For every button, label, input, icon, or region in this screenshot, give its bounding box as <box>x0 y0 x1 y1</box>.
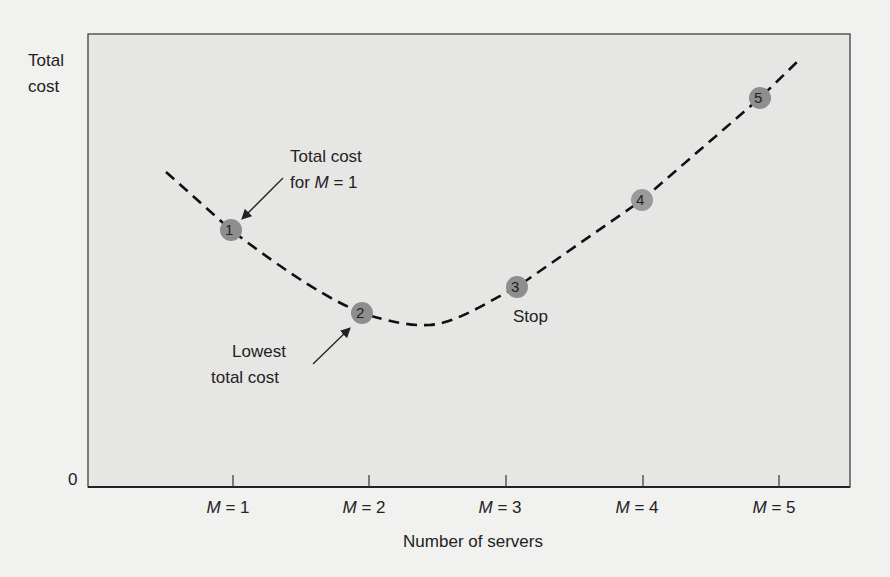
x-tick-label-5: M = 5 <box>752 498 795 518</box>
marker-label-1: 1 <box>225 220 233 240</box>
annotation-total-cost-m1-line2: for M = 1 <box>290 173 358 193</box>
y-axis-label-line1: Total <box>28 51 64 71</box>
chart-canvas <box>0 0 890 577</box>
x-tick-label-1: M = 1 <box>206 498 249 518</box>
marker-label-2: 2 <box>356 303 364 323</box>
plot-area <box>88 34 850 487</box>
marker-label-3: 3 <box>511 277 519 297</box>
marker-label-5: 5 <box>754 88 762 108</box>
x-tick-label-2: M = 2 <box>342 498 385 518</box>
x-axis-label: Number of servers <box>403 532 543 552</box>
x-tick-label-4: M = 4 <box>615 498 658 518</box>
y-origin-label: 0 <box>68 470 77 490</box>
annotation-lowest-line1: Lowest <box>232 342 286 362</box>
x-tick-label-3: M = 3 <box>478 498 521 518</box>
annotation-stop: Stop <box>513 307 548 327</box>
annotation-total-cost-m1-line1: Total cost <box>290 147 362 167</box>
annotation-lowest-line2: total cost <box>211 368 279 388</box>
marker-label-4: 4 <box>636 190 644 210</box>
y-axis-label-line2: cost <box>28 77 59 97</box>
